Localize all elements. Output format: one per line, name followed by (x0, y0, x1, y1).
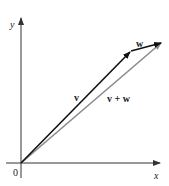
vector-v-label: v (74, 92, 79, 103)
vector-w-label: w (136, 38, 144, 49)
vector-v-plus-w (21, 43, 161, 163)
x-axis-label: x (153, 170, 159, 181)
vector-addition-diagram: y x 0 v w v + w (0, 0, 169, 186)
vector-v-plus-w-label: v + w (107, 93, 131, 104)
origin-label: 0 (13, 167, 18, 178)
vector-v (21, 52, 130, 163)
y-axis-label: y (9, 19, 15, 30)
